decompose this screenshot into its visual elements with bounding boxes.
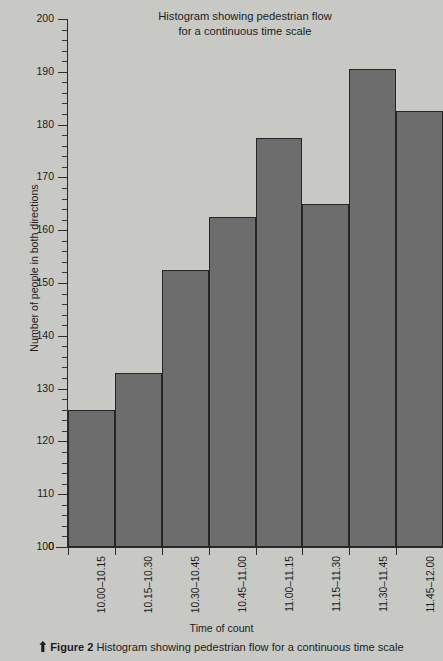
histogram-bar: [68, 410, 115, 547]
y-axis-tick: [58, 494, 67, 495]
y-axis-tick: [58, 177, 67, 178]
x-axis-label: 11.00–11.15: [284, 556, 295, 612]
y-axis-tick: [58, 72, 67, 73]
up-arrow-marker-icon: [39, 641, 46, 652]
x-axis-tick: [115, 548, 116, 555]
figure-caption-label: Figure 2: [50, 641, 93, 653]
bar-series: [68, 19, 443, 547]
x-axis-label: 10.30–10.45: [190, 556, 201, 613]
figure-caption-text: Histogram showing pedestrian flow for a …: [93, 641, 403, 653]
y-axis-label: 120: [8, 434, 54, 446]
x-axis-tick: [68, 548, 69, 555]
y-axis-tick: [58, 389, 67, 390]
y-axis-label: 190: [8, 65, 54, 77]
histogram-bar: [162, 270, 209, 547]
y-axis-tick: [58, 125, 67, 126]
y-axis-label: 200: [8, 12, 54, 24]
y-axis-label: 110: [8, 487, 54, 499]
y-axis-label: 180: [8, 118, 54, 130]
y-axis-tick: [58, 230, 67, 231]
y-axis-label: 140: [8, 329, 54, 341]
x-axis-tick: [162, 548, 163, 555]
x-axis-tick: [349, 548, 350, 555]
y-axis-label: 130: [8, 382, 54, 394]
x-axis-tick: [302, 548, 303, 555]
x-axis-label: 10.15–10.30: [143, 556, 154, 613]
x-axis-label: 10.45–11.00: [237, 556, 248, 613]
x-axis-label: 11.45–12.00: [425, 556, 436, 613]
figure-caption: Figure 2 Histogram showing pedestrian fl…: [0, 641, 443, 653]
histogram-bar: [209, 217, 256, 547]
y-axis-tick: [58, 441, 67, 442]
x-axis-label: 11.30–11.45: [378, 556, 389, 612]
x-axis-label: 10.00–10.15: [96, 556, 107, 613]
x-axis-tick: [209, 548, 210, 555]
histogram-bar: [302, 204, 349, 547]
y-axis-label: 150: [8, 276, 54, 288]
histogram-bar: [396, 111, 443, 547]
y-axis-tick: [58, 336, 67, 337]
histogram-bar: [256, 138, 303, 547]
y-axis-tick: [58, 19, 67, 20]
y-axis-label: 160: [8, 223, 54, 235]
x-axis-label: 11.15–11.30: [331, 556, 342, 612]
x-axis-tick: [396, 548, 397, 555]
histogram-bar: [349, 69, 396, 547]
x-axis-tick: [256, 548, 257, 555]
x-axis-title: Time of count: [0, 622, 443, 634]
y-axis-label: 170: [8, 170, 54, 182]
y-axis-tick: [58, 283, 67, 284]
histogram-bar: [115, 373, 162, 547]
y-axis-zero-label: 0: [8, 540, 54, 552]
figure-container: Histogram showing pedestrian flow for a …: [0, 0, 443, 661]
y-axis-title: Number of people in both directions: [28, 158, 40, 378]
